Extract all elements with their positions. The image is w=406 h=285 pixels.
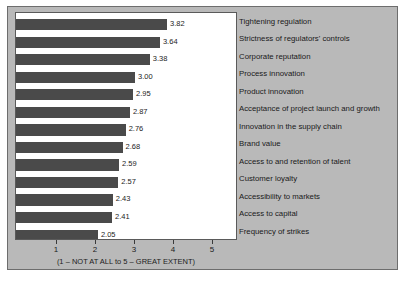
bar-value-label: 2.68	[126, 140, 141, 154]
plot-area: 3.823.643.383.002.952.872.762.682.592.57…	[15, 12, 237, 240]
bar-row: 3.82	[16, 16, 236, 34]
category-label: Corporate reputation	[239, 52, 311, 62]
category-label: Access to and retention of talent	[239, 157, 350, 167]
category-label: Product innovation	[239, 87, 304, 97]
x-axis-tick-label: 5	[210, 245, 214, 254]
bar-row: 2.43	[16, 191, 236, 209]
bar	[16, 142, 123, 153]
bar-value-label: 3.38	[153, 52, 168, 66]
bar	[16, 19, 167, 30]
chart-figure: 3.823.643.383.002.952.872.762.682.592.57…	[7, 6, 398, 270]
bar-value-label: 3.00	[138, 70, 153, 84]
bar	[16, 89, 133, 100]
bar-value-label: 2.59	[122, 157, 137, 171]
category-label: Frequency of strikes	[239, 227, 309, 237]
bar-row: 3.00	[16, 69, 236, 87]
bar-row: 2.41	[16, 209, 236, 227]
bar-value-label: 3.64	[163, 35, 178, 49]
x-axis-tick-label: 4	[171, 245, 175, 254]
x-axis-tick	[173, 240, 174, 244]
bar-row: 2.95	[16, 86, 236, 104]
bar-row: 2.87	[16, 104, 236, 122]
bar-value-label: 2.87	[133, 105, 148, 119]
category-label: Acceptance of project launch and growth	[239, 104, 380, 114]
x-axis-caption: (1 – NOT AT ALL to 5 – GREAT EXTENT)	[15, 257, 237, 266]
category-label-panel: Tightening regulationStrictness of regul…	[239, 12, 396, 240]
x-axis-tick	[56, 240, 57, 244]
bar-value-label: 3.82	[170, 17, 185, 31]
category-label: Customer loyalty	[239, 174, 297, 184]
category-label: Access to capital	[239, 209, 298, 219]
bar	[16, 230, 98, 240]
category-label: Strictness of regulators' controls	[239, 34, 350, 44]
bar-value-label: 2.95	[136, 87, 151, 101]
bar-row: 3.64	[16, 34, 236, 52]
bar-value-label: 2.57	[121, 175, 136, 189]
bar-row: 2.68	[16, 139, 236, 157]
bar	[16, 212, 112, 223]
bar	[16, 107, 130, 118]
bar-row: 2.57	[16, 174, 236, 192]
x-axis-tick	[134, 240, 135, 244]
bar-row: 3.38	[16, 51, 236, 69]
category-label: Process innovation	[239, 69, 305, 79]
x-axis-tick	[95, 240, 96, 244]
category-label: Innovation in the supply chain	[239, 122, 342, 132]
category-label: Tightening regulation	[239, 17, 312, 27]
category-label: Accessibility to markets	[239, 192, 320, 202]
bar-row: 2.59	[16, 156, 236, 174]
bar	[16, 37, 160, 48]
bar	[16, 54, 150, 65]
bar-row: 2.76	[16, 121, 236, 139]
bar-row: 2.05	[16, 226, 236, 240]
bar-value-label: 2.76	[129, 122, 144, 136]
bar	[16, 124, 126, 135]
bar	[16, 72, 135, 83]
bar-value-label: 2.05	[101, 228, 116, 240]
bar-value-label: 2.41	[115, 210, 130, 224]
x-axis-tick	[212, 240, 213, 244]
bar	[16, 177, 118, 188]
x-axis-tick-label: 1	[54, 245, 58, 254]
bar	[16, 159, 119, 170]
bar	[16, 194, 113, 205]
category-label: Brand value	[239, 139, 281, 149]
x-axis-tick-label: 3	[132, 245, 136, 254]
bar-value-label: 2.43	[116, 192, 131, 206]
x-axis-tick-label: 2	[93, 245, 97, 254]
x-axis: (1 – NOT AT ALL to 5 – GREAT EXTENT) 123…	[15, 240, 237, 270]
